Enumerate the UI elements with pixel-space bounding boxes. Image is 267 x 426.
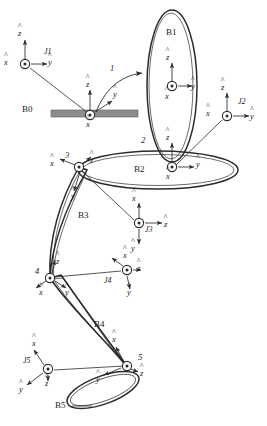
frame-label-J2: J2: [238, 98, 246, 106]
body-label-B0: B0: [22, 105, 33, 114]
axis-label-B1-y: y: [191, 82, 195, 91]
body-label-B2: B2: [134, 165, 145, 174]
kinematic-chain-diagram: [0, 0, 267, 426]
frame-label-J5: J5: [23, 357, 31, 365]
axis-label-J3-y: y: [131, 244, 135, 253]
axis-label-joint3-y: y: [71, 192, 75, 201]
body-label-B5: B5: [55, 401, 66, 410]
axis-label-B0-z: z: [86, 80, 89, 89]
frame-label-J4: J4: [104, 277, 112, 285]
axis-label-J5-z: z: [45, 379, 48, 388]
axis-label-J1-y: y: [48, 58, 52, 67]
axis-label-J4-z: z: [137, 264, 140, 273]
axis-label-J1-z: z: [18, 29, 21, 38]
axis-label-J4-x: x: [123, 251, 127, 260]
axis-label-joint2-z: z: [166, 133, 169, 142]
axis-label-B0-y: y: [113, 90, 117, 99]
joint-number-1: 1: [110, 64, 114, 73]
joint-number-5: 5: [138, 353, 142, 362]
axis-J5-y: [27, 373, 43, 385]
axis-label-J3-z: z: [164, 220, 167, 229]
axis-label-J5-y: y: [19, 385, 23, 394]
axis-label-J2-y: y: [250, 112, 254, 121]
joint-number-3: 3: [65, 151, 69, 160]
body-label-B4: B4: [94, 320, 105, 329]
body-label-B3: B3: [78, 211, 89, 220]
joint-number-2: 2: [141, 136, 145, 145]
axis-label-B1-x: x: [165, 92, 169, 101]
axis-label-joint4-z: z: [56, 257, 59, 266]
body-B5-shape: [63, 364, 144, 416]
axis-label-joint3-x: x: [50, 159, 54, 168]
axis-label-joint2-y: y: [196, 160, 200, 169]
axis-label-J1-x: x: [4, 58, 8, 67]
joint-marker-J1-origin: [20, 59, 29, 68]
axis-label-J2-z: z: [221, 83, 224, 92]
axis-label-joint2-x: x: [166, 172, 170, 181]
axis-J4-x: [112, 258, 123, 266]
joint1-callout-arrow: [96, 73, 142, 112]
axis-label-joint3-z: z: [90, 156, 93, 165]
joint-number-4: 4: [35, 267, 39, 276]
axis-label-B0-x: x: [86, 120, 90, 129]
axis-label-joint5-x: x: [112, 335, 116, 344]
axis-label-joint4-y: y: [65, 288, 69, 297]
body-label-B1: B1: [166, 28, 177, 37]
axis-label-joint5-z: z: [140, 369, 143, 378]
axis-label-joint5-y: y: [96, 375, 100, 384]
body-B4-shape: [50, 275, 127, 366]
joint-marker-3: [74, 162, 83, 171]
body-B2-shape: [78, 151, 238, 189]
axis-label-J4-y: y: [127, 288, 131, 297]
joint-marker-J4-origin: [122, 265, 131, 274]
axis-label-B1-z: z: [166, 53, 169, 62]
joint-marker-J2-origin: [222, 111, 231, 120]
joint-marker-J3-origin: [134, 218, 143, 227]
axis-J5-x: [34, 350, 44, 365]
joint-markers: [20, 59, 231, 373]
axis-label-J3-x: x: [132, 194, 136, 203]
joint-marker-5: [122, 361, 131, 370]
axis-label-J5-x: x: [32, 339, 36, 348]
joint-marker-4: [45, 273, 54, 282]
frame-label-J3: J3: [145, 226, 153, 234]
axis-label-joint4-x: x: [39, 288, 43, 297]
axis-label-J2-x: x: [206, 109, 210, 118]
